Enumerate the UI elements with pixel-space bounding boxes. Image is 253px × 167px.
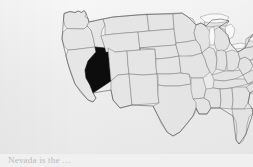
state-wyoming[interactable] bbox=[101, 32, 140, 52]
lake-superior bbox=[200, 14, 229, 23]
state-ohio[interactable] bbox=[226, 50, 240, 71]
lake-michigan bbox=[209, 27, 215, 45]
state-new-mexico[interactable] bbox=[129, 74, 159, 105]
state-georgia[interactable] bbox=[232, 87, 250, 109]
map-canvas bbox=[0, 0, 253, 155]
state-oklahoma[interactable] bbox=[157, 73, 191, 86]
caption-text: Nevada is the … bbox=[8, 155, 248, 165]
lake-erie bbox=[231, 43, 246, 49]
state-arkansas[interactable] bbox=[191, 78, 206, 99]
state-arizona[interactable] bbox=[111, 74, 132, 108]
caption-strip: Nevada is the … bbox=[0, 154, 253, 167]
state-colorado[interactable] bbox=[127, 49, 157, 75]
state-indiana[interactable] bbox=[216, 50, 227, 71]
state-oregon[interactable] bbox=[62, 26, 95, 50]
state-washington[interactable] bbox=[64, 11, 90, 30]
state-kansas[interactable] bbox=[156, 56, 181, 74]
state-north-dakota[interactable] bbox=[147, 14, 174, 31]
map-figure: Nevada is the … bbox=[0, 0, 253, 167]
state-minnesota[interactable] bbox=[173, 13, 196, 43]
state-alabama[interactable] bbox=[220, 88, 233, 109]
united-states-map[interactable] bbox=[0, 0, 253, 155]
